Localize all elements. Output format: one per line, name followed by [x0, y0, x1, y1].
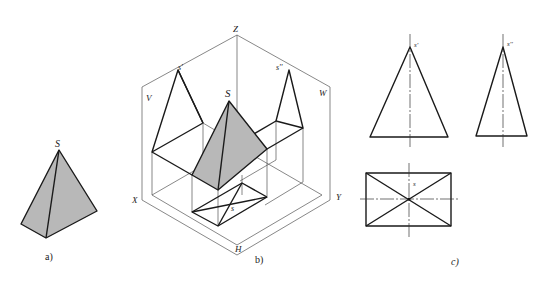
front-apex-label: s' — [178, 63, 183, 72]
panel-a-pyramid-isometric: S a) — [21, 138, 97, 263]
side-projection-triangle — [276, 70, 303, 128]
top-apex-label: s — [413, 180, 416, 188]
top-view-apex-point — [408, 198, 411, 201]
proj-line — [265, 182, 303, 205]
plane-v-label: V — [146, 93, 153, 103]
side-view-triangle — [476, 47, 527, 136]
panel-b-projection-system: Z V W s' s'' S s X Y H b) — [131, 24, 342, 266]
apex-label-S: S — [55, 138, 60, 149]
plane-h-label: H — [234, 244, 242, 254]
front-view-triangle — [370, 47, 448, 137]
plane-w-label: W — [319, 88, 328, 98]
front-projection-triangle — [152, 70, 203, 152]
panel-c-orthographic-views: s' s'' s c) — [360, 34, 527, 268]
front-proj-edge — [178, 70, 203, 123]
pyramid-projection-figure: S a) — [0, 0, 548, 286]
side-apex-label: s'' — [507, 40, 513, 48]
apex-label-S: S — [225, 87, 231, 99]
proj-line — [152, 152, 192, 175]
front-apex-label: s' — [414, 41, 419, 49]
caption-b: b) — [255, 254, 263, 266]
proj-line — [267, 128, 303, 149]
caption-a: a) — [45, 251, 53, 263]
axis-z-label: Z — [233, 24, 239, 34]
caption-c: c) — [451, 256, 459, 268]
side-apex-label: s'' — [276, 63, 283, 72]
axis-y-label: Y — [336, 192, 342, 202]
top-apex-label: s — [231, 204, 234, 213]
pyramid-faces — [21, 150, 97, 238]
axis-x-label: X — [131, 195, 138, 205]
